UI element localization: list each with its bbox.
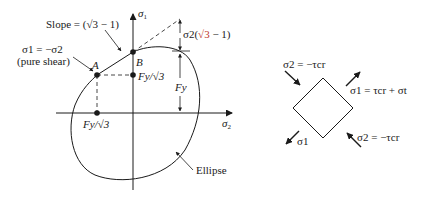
point-fy-sqrt3-vertical (130, 72, 136, 78)
point-b (130, 49, 136, 55)
element-bottom-left-label: σ1 (297, 135, 308, 147)
point-fy-sqrt3-horizontal (94, 110, 100, 116)
pure-shear-note: (pure shear) (17, 55, 70, 68)
point-a-label: A (91, 59, 99, 71)
pure-shear-equation: σ1 = −σ2 (22, 43, 63, 55)
sigma2-axis-label: σ2 (222, 117, 231, 131)
point-a (94, 72, 100, 78)
element-top-right-label: σ1 = τcr + σt (350, 84, 407, 96)
ellipse-leader-arrow (176, 152, 193, 170)
yield-diagram: σ1 σ2 Slope = (√3 − 1) σ1 = −σ2 (pure sh… (0, 0, 422, 201)
element-bottom-right-label: σ2 = −τcr (357, 131, 400, 143)
slope-leader-arrow (105, 30, 121, 51)
point-b-label: B (136, 56, 143, 68)
slope-label: Slope = (√3 − 1) (46, 18, 119, 31)
sigma1-axis-label: σ1 (138, 7, 147, 21)
top-left-compression-arrow (285, 71, 300, 85)
element-top-left-label: σ2 = −τcr (283, 58, 326, 70)
sigma2-term-label: σ2(√3 − 1) (183, 28, 231, 41)
slope-line (97, 52, 133, 75)
stress-element: σ2 = −τcr σ1 = τcr + σt σ1 σ2 = −τcr (283, 58, 407, 147)
fy-label: Fy (174, 81, 187, 93)
fy-sqrt3-horizontal-label: Fy/√3 (82, 118, 110, 130)
ellipse-label: Ellipse (196, 164, 227, 176)
pure-shear-leader-arrow (73, 57, 93, 71)
fy-sqrt3-vertical-label: Fy/√3 (137, 70, 165, 82)
element-square (293, 78, 353, 138)
